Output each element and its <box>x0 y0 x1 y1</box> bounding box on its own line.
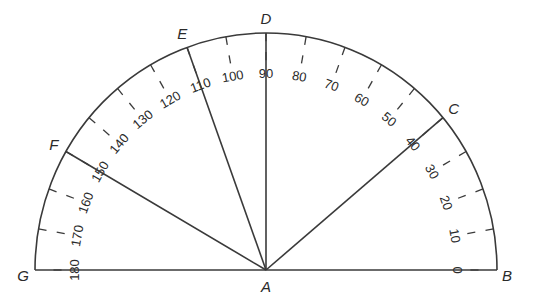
outer-tick-80 <box>305 37 306 45</box>
point-label-E: E <box>177 25 188 42</box>
outer-tick-60 <box>377 65 381 72</box>
point-labels: BCDEFGA <box>17 10 512 294</box>
inner-tick-100 <box>229 55 230 63</box>
inner-tick-120 <box>160 81 164 88</box>
outer-tick-120 <box>151 65 155 72</box>
scale-label-170: 170 <box>68 224 87 248</box>
outer-tick-170 <box>39 229 47 230</box>
inner-tick-70 <box>336 65 339 73</box>
outer-tick-160 <box>49 189 57 192</box>
scale-label-60: 60 <box>352 90 372 110</box>
outer-tick-130 <box>118 88 123 94</box>
outer-tick-10 <box>486 229 494 230</box>
ray-AC <box>266 118 443 270</box>
point-label-B: B <box>502 267 512 284</box>
outer-tick-20 <box>475 189 483 192</box>
scale-label-30: 30 <box>422 162 442 182</box>
point-label-C: C <box>448 100 459 117</box>
point-label-D: D <box>261 10 272 27</box>
point-label-G: G <box>17 267 29 284</box>
inner-tick-160 <box>66 195 74 198</box>
inner-tick-80 <box>301 55 302 63</box>
protractor-svg: 0102030405060708090100110120130140150160… <box>0 0 534 302</box>
point-label-A: A <box>260 278 271 295</box>
inner-tick-50 <box>397 103 402 109</box>
inner-tick-170 <box>57 232 65 233</box>
point-label-F: F <box>49 136 59 153</box>
inner-tick-20 <box>458 195 466 198</box>
scale-label-0: 0 <box>450 266 465 273</box>
protractor-diagram: 0102030405060708090100110120130140150160… <box>0 0 534 302</box>
inner-tick-140 <box>103 130 109 135</box>
scale-label-160: 160 <box>75 190 97 216</box>
scale-label-20: 20 <box>437 193 456 212</box>
inner-tick-130 <box>129 103 134 109</box>
outer-tick-140 <box>89 118 95 123</box>
scale-label-120: 120 <box>157 88 183 112</box>
scale-label-80: 80 <box>291 68 308 85</box>
inner-tick-30 <box>443 161 450 165</box>
outer-tick-50 <box>409 88 414 94</box>
inner-tick-60 <box>368 81 372 88</box>
scale-label-10: 10 <box>446 227 463 244</box>
outer-tick-100 <box>226 37 227 45</box>
scale-label-70: 70 <box>322 76 341 95</box>
outer-tick-70 <box>342 47 345 55</box>
scale-label-50: 50 <box>379 109 400 130</box>
scale-label-130: 130 <box>130 107 156 132</box>
scale-label-140: 140 <box>106 130 131 156</box>
inner-tick-10 <box>467 232 475 233</box>
scale-label-100: 100 <box>221 67 245 86</box>
ray-AF <box>66 152 266 271</box>
outer-tick-30 <box>459 152 466 156</box>
scale-label-180: 180 <box>67 259 82 281</box>
